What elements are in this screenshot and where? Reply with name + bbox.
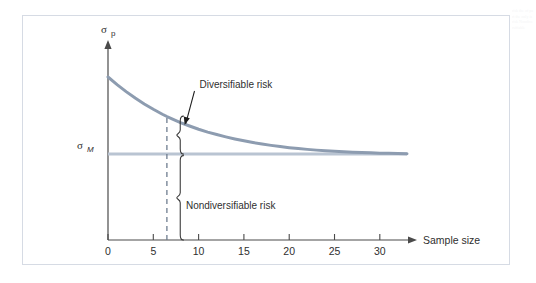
figure-frame — [22, 15, 510, 265]
margin-artifact-text: risk the of part the only is risk Nondiv… — [512, 8, 534, 68]
figure-container: 051015202530 Sample size σ p σ M — [0, 0, 536, 283]
